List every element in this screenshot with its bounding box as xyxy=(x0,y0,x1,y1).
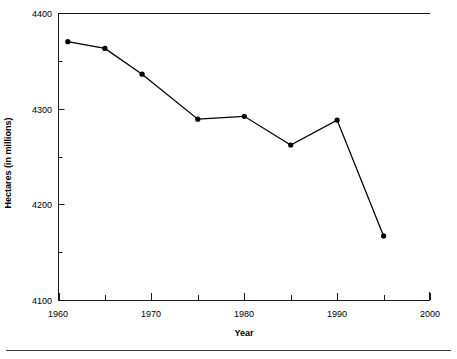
x-axis-major-ticks xyxy=(60,293,431,300)
footer-divider-rule xyxy=(6,350,451,351)
data-point-markers xyxy=(65,39,386,238)
data-point-marker xyxy=(140,72,145,77)
data-point-marker xyxy=(242,114,247,119)
plot-area xyxy=(0,0,457,359)
data-point-marker xyxy=(102,46,107,51)
data-point-marker xyxy=(65,39,70,44)
data-point-marker xyxy=(335,118,340,123)
chart-figure: Hectares (in millions) 4400 4300 4200 41… xyxy=(0,0,457,359)
data-point-marker xyxy=(381,233,386,238)
data-line-series xyxy=(68,42,384,236)
data-point-marker xyxy=(195,117,200,122)
data-point-marker xyxy=(288,142,293,147)
y-axis-minor-ticks xyxy=(59,62,63,253)
